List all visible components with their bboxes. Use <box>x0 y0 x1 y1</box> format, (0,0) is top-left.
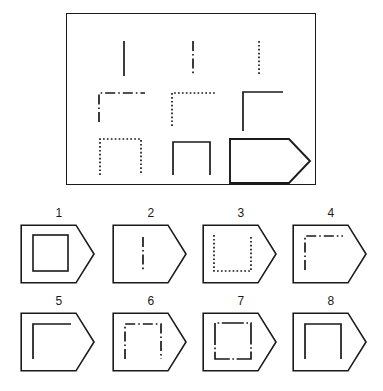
answer-slot-pentagon[interactable] <box>230 139 310 183</box>
option-4-tile[interactable] <box>292 224 370 284</box>
option-8[interactable]: 8 <box>290 293 372 375</box>
matrix-cell-2-1 <box>99 93 145 122</box>
option-7-pentagon[interactable] <box>203 313 276 371</box>
option-5-tile[interactable] <box>20 312 98 372</box>
answer-options: 1 2 3 <box>0 205 383 391</box>
option-6-label: 6 <box>110 293 192 310</box>
option-8-label: 8 <box>290 293 372 310</box>
open-bottom-square-solid <box>173 142 210 175</box>
option-3-pentagon[interactable] <box>203 225 276 283</box>
option-1[interactable]: 1 <box>18 205 100 287</box>
matrix-cell-3-1 <box>100 139 141 175</box>
option-1-tile[interactable] <box>20 224 98 284</box>
option-6-tile[interactable] <box>112 312 190 372</box>
corner-top-left-solid <box>243 92 283 131</box>
option-2-label: 2 <box>110 205 192 222</box>
option-4[interactable]: 4 <box>290 205 372 287</box>
option-4-pentagon[interactable] <box>293 225 366 283</box>
matrix-cell-3-2 <box>173 142 210 175</box>
option-2-tile[interactable] <box>112 224 190 284</box>
option-4-label: 4 <box>290 205 372 222</box>
corner-top-left-dotted <box>172 93 215 126</box>
matrix-cell-2-2 <box>172 93 215 126</box>
corner-top-left-dash-dot <box>99 93 145 122</box>
option-5-pentagon[interactable] <box>21 313 94 371</box>
matrix-cell-3-3-answer-slot[interactable] <box>230 139 310 183</box>
matrix-figures <box>67 14 317 186</box>
option-6[interactable]: 6 <box>110 293 192 375</box>
option-7[interactable]: 7 <box>200 293 282 375</box>
option-1-pentagon[interactable] <box>21 225 94 283</box>
option-2[interactable]: 2 <box>110 205 192 287</box>
matrix-reasoning-puzzle: 1 2 3 <box>0 0 383 391</box>
option-2-pentagon[interactable] <box>113 225 186 283</box>
option-8-pentagon[interactable] <box>293 313 366 371</box>
option-8-tile[interactable] <box>292 312 370 372</box>
option-3-tile[interactable] <box>202 224 280 284</box>
option-5-label: 5 <box>18 293 100 310</box>
option-7-tile[interactable] <box>202 312 280 372</box>
matrix-panel <box>66 13 316 185</box>
option-3-label: 3 <box>200 205 282 222</box>
option-5[interactable]: 5 <box>18 293 100 375</box>
option-3[interactable]: 3 <box>200 205 282 287</box>
option-7-label: 7 <box>200 293 282 310</box>
option-6-pentagon[interactable] <box>113 313 186 371</box>
matrix-cell-2-3 <box>243 92 283 131</box>
option-1-label: 1 <box>18 205 100 222</box>
matrix-grid <box>67 14 317 186</box>
open-bottom-square-dotted <box>100 139 141 175</box>
